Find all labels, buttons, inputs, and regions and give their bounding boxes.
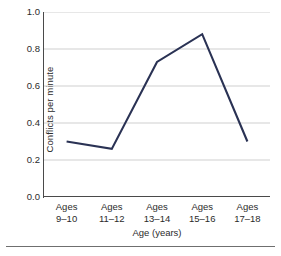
y-axis-tick-labels: 0.00.20.40.60.81.0 — [14, 0, 40, 256]
plot-svg — [44, 12, 270, 197]
x-tick-label-line1: Ages — [191, 201, 213, 212]
x-tick-label-line2: 17–18 — [225, 213, 270, 225]
x-tick-label: Ages9–10 — [44, 201, 89, 224]
x-tick-label: Ages17–18 — [225, 201, 270, 224]
x-tick-label-line2: 13–14 — [134, 213, 179, 225]
x-tick-label-line2: 15–16 — [180, 213, 225, 225]
bottom-rule — [6, 246, 275, 247]
x-tick-label: Ages11–12 — [89, 201, 134, 224]
y-tick-label: 0.8 — [16, 44, 40, 54]
y-tick-label: 0.2 — [16, 155, 40, 165]
plot-area — [44, 12, 270, 197]
x-tick-label-line1: Ages — [237, 201, 259, 212]
x-axis-title: Age (years) — [44, 227, 270, 238]
x-tick-label-line1: Ages — [56, 201, 78, 212]
x-tick-label: Ages15–16 — [180, 201, 225, 224]
y-tick-label: 0.0 — [16, 192, 40, 202]
x-tick-label-line1: Ages — [146, 201, 168, 212]
x-tick-label: Ages13–14 — [134, 201, 179, 224]
x-tick-label-line2: 9–10 — [44, 213, 89, 225]
y-tick-label: 0.4 — [16, 118, 40, 128]
line-chart-figure: Conflicts per minute 0.00.20.40.60.81.0 … — [0, 0, 281, 256]
y-tick-label: 0.6 — [16, 81, 40, 91]
x-axis-tick-labels: Ages9–10Ages11–12Ages13–14Ages15–16Ages1… — [44, 201, 270, 224]
x-tick-label-line2: 11–12 — [89, 213, 134, 225]
x-tick-label-line1: Ages — [101, 201, 123, 212]
y-tick-label: 1.0 — [16, 7, 40, 17]
data-series-line — [67, 34, 248, 149]
gridlines — [44, 12, 270, 160]
